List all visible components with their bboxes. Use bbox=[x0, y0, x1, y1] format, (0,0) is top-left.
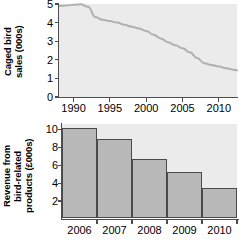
caged-bird-sales-series bbox=[59, 4, 237, 97]
line-chart-y-tick bbox=[55, 22, 59, 23]
line-chart-y-tick-label: 3 bbox=[33, 35, 53, 47]
line-chart-x-tick-label: 1995 bbox=[98, 102, 122, 114]
bar-chart-bar bbox=[167, 172, 202, 218]
caged-bird-sales-line bbox=[59, 4, 237, 70]
bar-chart-plot-area bbox=[62, 124, 237, 218]
line-chart-y-tick-label: 5 bbox=[33, 0, 53, 10]
bar-chart-y-tick-label: 4 bbox=[36, 177, 58, 189]
bar-chart-y-tick bbox=[58, 200, 62, 201]
line-chart-y-tick bbox=[55, 59, 59, 60]
bar-chart-y-tick-label: 2 bbox=[36, 195, 58, 207]
bar-chart-y-tick-label: 10 bbox=[36, 123, 58, 135]
line-chart-x-tick bbox=[182, 98, 183, 102]
line-chart-y-tick bbox=[55, 96, 59, 97]
bar-chart-x-tick-label: 2010 bbox=[207, 224, 231, 236]
line-chart-y-tick bbox=[55, 41, 59, 42]
line-chart-y-tick bbox=[55, 3, 59, 4]
line-chart-x-tick-label: 2000 bbox=[134, 102, 158, 114]
bar-chart-y-axis bbox=[61, 123, 62, 219]
bar-chart-bar bbox=[97, 139, 132, 218]
bar-chart-x-tick bbox=[131, 220, 132, 224]
bar-chart-x-axis bbox=[61, 219, 239, 220]
line-chart-x-tick bbox=[109, 98, 110, 102]
bar-chart-bar bbox=[132, 159, 167, 218]
caged-bird-sales-line-chart: Caged bird sales (000s) 0123451990199520… bbox=[0, 0, 241, 118]
bar-chart-y-axis-title: Revenue from bird-related products (£000… bbox=[1, 120, 34, 232]
line-chart-y-tick-label: 2 bbox=[33, 54, 53, 66]
line-chart-x-tick bbox=[146, 98, 147, 102]
bar-chart-x-tick-label: 2006 bbox=[67, 224, 91, 236]
bar-chart-x-tick bbox=[201, 220, 202, 224]
chart-page: Caged bird sales (000s) 0123451990199520… bbox=[0, 0, 241, 242]
bar-chart-x-tick bbox=[166, 220, 167, 224]
line-chart-x-tick-label: 2010 bbox=[207, 102, 231, 114]
bar-chart-y-tick bbox=[58, 183, 62, 184]
bar-chart-y-tick bbox=[58, 165, 62, 166]
bar-chart-x-tick-label: 2008 bbox=[137, 224, 161, 236]
line-chart-y-axis bbox=[58, 3, 59, 98]
bar-chart-y-tick-label: 8 bbox=[36, 141, 58, 153]
bird-revenue-bar-chart: Revenue from bird-related products (£000… bbox=[0, 118, 241, 242]
line-chart-plot-area bbox=[59, 4, 237, 97]
line-chart-x-tick bbox=[218, 98, 219, 102]
line-chart-y-tick-label: 1 bbox=[33, 72, 53, 84]
line-chart-y-axis-title: Caged bird sales (000s) bbox=[2, 6, 24, 98]
line-chart-x-tick-label: 2005 bbox=[170, 102, 194, 114]
bar-chart-x-tick bbox=[96, 220, 97, 224]
bar-chart-y-tick bbox=[58, 129, 62, 130]
line-chart-x-tick bbox=[73, 98, 74, 102]
line-chart-x-axis bbox=[58, 97, 238, 98]
bar-chart-bar bbox=[62, 128, 97, 218]
bar-chart-x-tick-label: 2007 bbox=[102, 224, 126, 236]
line-chart-y-tick-label: 0 bbox=[33, 91, 53, 103]
line-chart-y-tick bbox=[55, 78, 59, 79]
line-chart-x-tick-label: 1990 bbox=[61, 102, 85, 114]
bar-chart-y-tick bbox=[58, 147, 62, 148]
bar-chart-bar bbox=[202, 188, 237, 218]
bar-chart-x-tick bbox=[236, 220, 237, 224]
bar-chart-x-tick-label: 2009 bbox=[172, 224, 196, 236]
line-chart-y-tick-label: 4 bbox=[33, 17, 53, 29]
bar-chart-y-tick-label: 6 bbox=[36, 159, 58, 171]
